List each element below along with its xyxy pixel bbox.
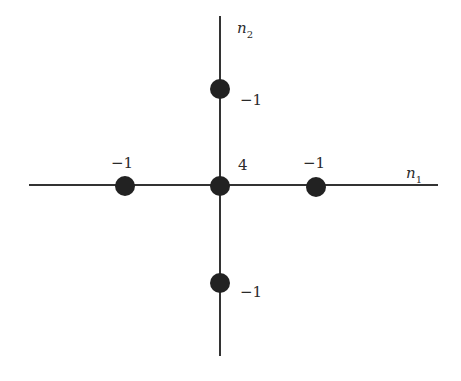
point-center	[210, 176, 230, 196]
value-bottom: −1	[240, 283, 262, 301]
point-left	[115, 176, 135, 196]
point-top	[210, 79, 230, 99]
value-left: −1	[111, 154, 133, 172]
value-right: −1	[303, 154, 325, 172]
n1-axis-label: n1	[406, 164, 422, 185]
laplacian-stencil-diagram: n2 n1 −1 −1 4 −1 −1	[0, 0, 461, 381]
point-bottom	[210, 273, 230, 293]
value-center: 4	[238, 156, 248, 174]
value-top: −1	[240, 91, 262, 109]
n2-axis-label: n2	[237, 19, 253, 40]
point-right	[306, 177, 326, 197]
